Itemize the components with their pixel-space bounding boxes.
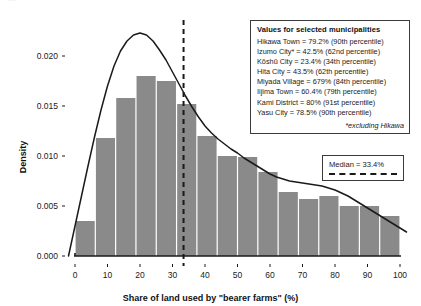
- x-axis-label: Share of land used by "bearer farms" (%): [0, 293, 421, 303]
- density-chart-figure: … 0.0000.0050.0100.0150.020 010203040506…: [0, 0, 421, 306]
- median-dashed-swatch: [329, 173, 397, 175]
- municipality-legend-row: Izumo City* = 42.5% (62nd percentile): [257, 47, 404, 57]
- histogram-bar: [96, 138, 115, 256]
- histogram-bar: [299, 199, 318, 256]
- histogram-bar: [157, 81, 176, 256]
- x-tick-label: 80: [320, 270, 350, 280]
- histogram-bar: [218, 156, 237, 256]
- histogram-bar: [279, 192, 298, 256]
- histogram-bar: [238, 157, 257, 256]
- municipality-legend-row: Hita City = 43.5% (62th percentile): [257, 67, 404, 77]
- municipality-legend-row: Miyada Village = 679% (84th percentile): [257, 77, 404, 87]
- histogram-bar: [116, 98, 135, 256]
- x-tick-label: 20: [125, 270, 155, 280]
- median-legend-box: Median = 33.4%: [322, 155, 404, 181]
- municipality-legend-footnote: *excluding Hikawa: [257, 121, 404, 130]
- x-tick-label: 10: [93, 270, 123, 280]
- y-axis-label: Density: [18, 112, 28, 202]
- x-tick-label: 50: [223, 270, 253, 280]
- y-tick-label: 0.000: [18, 251, 58, 261]
- x-tick-label: 0: [60, 270, 90, 280]
- median-legend-label: Median = 33.4%: [329, 160, 398, 169]
- y-tick-label: 0.015: [18, 101, 58, 111]
- histogram-bar: [319, 196, 338, 256]
- y-tick-label: 0.005: [18, 201, 58, 211]
- municipality-legend-box: Values for selected municipalities Hikaw…: [250, 20, 410, 134]
- x-tick-label: 60: [255, 270, 285, 280]
- municipality-legend-row: Kami District = 80% (91st percentile): [257, 98, 404, 108]
- x-tick-label: 70: [288, 270, 318, 280]
- x-tick-label: 100: [385, 270, 415, 280]
- municipality-legend-title: Values for selected municipalities: [257, 25, 404, 34]
- y-tick-label: 0.020: [18, 51, 58, 61]
- y-tick-marks: [62, 56, 65, 256]
- x-tick-label: 30: [158, 270, 188, 280]
- histogram-bar: [177, 104, 196, 256]
- histogram-bar: [340, 206, 359, 256]
- municipality-legend-rows: Hikawa Town = 79.2% (90th percentile)Izu…: [257, 37, 404, 118]
- municipality-legend-row: Yasu City = 78.5% (90th percentile): [257, 108, 404, 118]
- x-tick-label: 40: [190, 270, 220, 280]
- histogram-bar: [258, 172, 277, 256]
- municipality-legend-row: Kōshū City = 23.4% (34th percentile): [257, 57, 404, 67]
- municipality-legend-row: Hikawa Town = 79.2% (90th percentile): [257, 37, 404, 47]
- x-tick-marks: [75, 264, 400, 267]
- histogram-bar: [76, 221, 95, 256]
- x-tick-label: 90: [353, 270, 383, 280]
- histogram-bar: [137, 76, 156, 256]
- histogram-bar: [197, 136, 216, 256]
- municipality-legend-row: Iijima Town = 60.4% (79th percentile): [257, 87, 404, 97]
